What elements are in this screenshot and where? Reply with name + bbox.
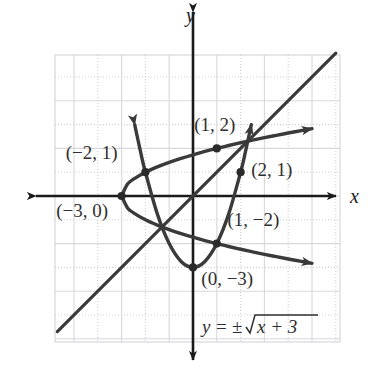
x-axis-label: x <box>349 185 359 207</box>
equation-plusminus: ± <box>232 316 242 337</box>
equation-lhs: y <box>200 316 211 337</box>
equation-equals: = <box>216 316 227 337</box>
annotation-label: (−2, 1) <box>66 142 118 164</box>
point-neg3-0 <box>118 192 126 200</box>
point-0-neg3 <box>189 263 197 271</box>
annotation-label: (2, 1) <box>251 159 292 181</box>
annotation-label: (−3, 0) <box>56 200 108 222</box>
annotation-label: (1, −2) <box>228 209 280 231</box>
point-2-1 <box>237 168 245 176</box>
annotation-label: (0, −3) <box>201 268 253 290</box>
point-neg2-1 <box>141 168 149 176</box>
y-axis-label: y <box>184 4 195 27</box>
graph-svg: x y (1, 2)(−2, 1)(2, 1)(−3, 0)(1, −2)(0,… <box>0 0 385 372</box>
figure-canvas: x y (1, 2)(−2, 1)(2, 1)(−3, 0)(1, −2)(0,… <box>0 0 385 372</box>
annotation-label: (1, 2) <box>194 114 235 136</box>
point-1-neg2 <box>213 240 221 248</box>
equation-radicand: x + 3 <box>256 316 297 337</box>
point-1-2 <box>213 144 221 152</box>
